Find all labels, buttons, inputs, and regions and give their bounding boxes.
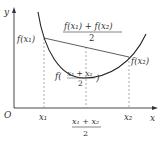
y-axis-arrow-icon	[12, 7, 16, 13]
convex-function-diagram: y x O f(x₁) f(x₂) x₁ x₂ f(x₁) + f(x₂) 2 …	[0, 0, 162, 141]
y-axis-label: y	[3, 7, 10, 17]
midpoint-numerator: x₁ + x₂	[72, 117, 99, 126]
f-mid-prefix: f(	[54, 71, 62, 81]
chord-mid-numerator: f(x₁) + f(x₂)	[63, 21, 113, 31]
x-axis-label: x	[150, 113, 155, 123]
x-axis-arrow-icon	[152, 106, 158, 110]
chord-line	[44, 38, 129, 57]
f-mid-denominator: 2	[78, 79, 83, 88]
chord-mid-denominator: 2	[89, 33, 94, 43]
midpoint-denominator: 2	[83, 129, 88, 138]
fx2-label: f(x₂)	[130, 56, 149, 66]
f-mid-numerator: x₁ + x₂	[67, 69, 93, 78]
x2-label: x₂	[124, 112, 133, 122]
x1-label: x₁	[39, 112, 47, 122]
origin-label: O	[4, 110, 12, 120]
f-mid-suffix: )	[95, 73, 100, 83]
fx1-label: f(x₁)	[16, 34, 35, 44]
